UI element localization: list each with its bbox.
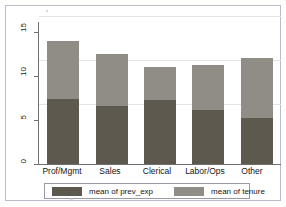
y-tick-label-0: 0 [20, 159, 28, 163]
stata-graph-frame: 15 10 5 0 Prof/Mgmt Sales Clerical Labor… [5, 5, 281, 201]
bar-other [241, 58, 273, 164]
scan-speck [46, 10, 48, 12]
bar-sales [96, 54, 128, 164]
y-tick-mark-0 [34, 164, 39, 165]
legend-label-tenure: mean of tenure [211, 187, 265, 196]
scanned-page-background: 15 10 5 0 Prof/Mgmt Sales Clerical Labor… [0, 0, 286, 207]
bar-prof-mgmt [47, 41, 79, 164]
gridline-15 [39, 16, 281, 17]
bar-labor-ops [192, 65, 224, 164]
bar-clerical [144, 67, 176, 164]
bar-segment-tenure [241, 58, 273, 119]
y-tick-label-15: 15 [20, 23, 28, 32]
bar-segment-prev-exp [47, 99, 79, 164]
chart-legend: mean of prev_exp mean of tenure [44, 183, 250, 199]
bar-segment-tenure [47, 41, 79, 99]
bar-segment-prev-exp [144, 100, 176, 164]
bar-segment-tenure [96, 54, 128, 106]
legend-label-prev-exp: mean of prev_exp [89, 187, 153, 196]
bar-segment-prev-exp [96, 106, 128, 164]
bar-segment-prev-exp [241, 118, 273, 164]
legend-swatch-prev-exp [52, 187, 82, 196]
legend-entry-prev-exp: mean of prev_exp [45, 184, 153, 198]
y-tick-label-5: 5 [20, 115, 28, 119]
bar-segment-tenure [144, 67, 176, 100]
legend-entry-tenure: mean of tenure [167, 184, 265, 198]
x-tick-label-4: Other [222, 166, 282, 176]
y-tick-label-10: 10 [20, 67, 28, 76]
bars-container [39, 22, 281, 164]
x-axis-line [38, 164, 281, 165]
legend-swatch-tenure [174, 187, 204, 196]
scan-speck [70, 198, 73, 200]
bar-segment-tenure [192, 65, 224, 110]
bar-segment-prev-exp [192, 110, 224, 164]
